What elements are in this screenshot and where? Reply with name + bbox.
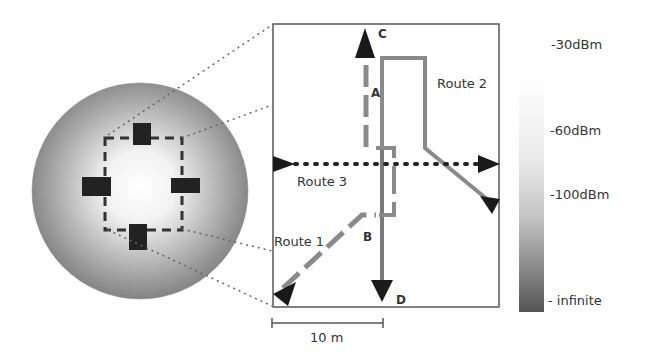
scale-bar: 10 m [272, 318, 383, 345]
point-c-label: C [378, 27, 387, 41]
scale-bar-label: 10 m [310, 330, 343, 345]
arrow-up-c-icon [355, 28, 375, 58]
route-1-connector [376, 148, 394, 215]
route-3-start-arrow-icon [273, 156, 295, 172]
access-point-bottom [129, 224, 147, 250]
colorbar-tick-60: -60dBm [550, 123, 601, 138]
point-a-label: A [371, 86, 381, 100]
route-3-label: Route 3 [297, 174, 347, 189]
route-2-label: Route 2 [437, 76, 487, 91]
signal-strength-colorbar: -30dBm -60dBm -100dBm - infinite [519, 37, 609, 312]
access-point-top [133, 123, 151, 145]
colorbar-tick-infinite: - infinite [548, 293, 602, 308]
route-1-path [283, 215, 376, 288]
route-1-label: Route 1 [274, 234, 324, 249]
coverage-sphere [32, 83, 248, 299]
access-point-right [171, 178, 200, 193]
signal-route-diagram: C A B D Route 2 Route 3 Route 1 10 m -30… [0, 0, 648, 356]
colorbar-tick-30: -30dBm [551, 37, 602, 52]
point-d-label: D [396, 293, 406, 307]
route-2-arrow-icon [480, 196, 500, 214]
route-3-end-arrow-icon [478, 155, 500, 173]
arrow-down-d-icon [371, 280, 393, 302]
point-b-label: B [363, 230, 372, 244]
access-point-left [82, 177, 111, 196]
colorbar-tick-100: -100dBm [550, 187, 609, 202]
